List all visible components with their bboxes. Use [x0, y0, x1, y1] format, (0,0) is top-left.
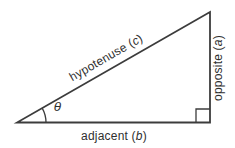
opposite-label-text: opposite (: [211, 46, 225, 101]
opposite-label-close: ): [211, 35, 225, 39]
hypotenuse-label: hypotenuse (c): [67, 31, 145, 84]
right-triangle-figure: θ hypotenuse (c) opposite (a) adjacent (…: [0, 0, 235, 148]
triangle-diagram-canvas: θ hypotenuse (c) opposite (a) adjacent (…: [0, 0, 235, 148]
triangle-outline: [17, 12, 210, 123]
opposite-label: opposite (a): [211, 35, 225, 101]
adjacent-label-text: adjacent (: [81, 129, 136, 143]
adjacent-label: adjacent (b): [81, 129, 147, 143]
right-angle-marker: [196, 109, 210, 123]
theta-angle-label: θ: [54, 99, 62, 114]
angle-arc: [42, 108, 46, 122]
adjacent-label-close: ): [143, 129, 147, 143]
